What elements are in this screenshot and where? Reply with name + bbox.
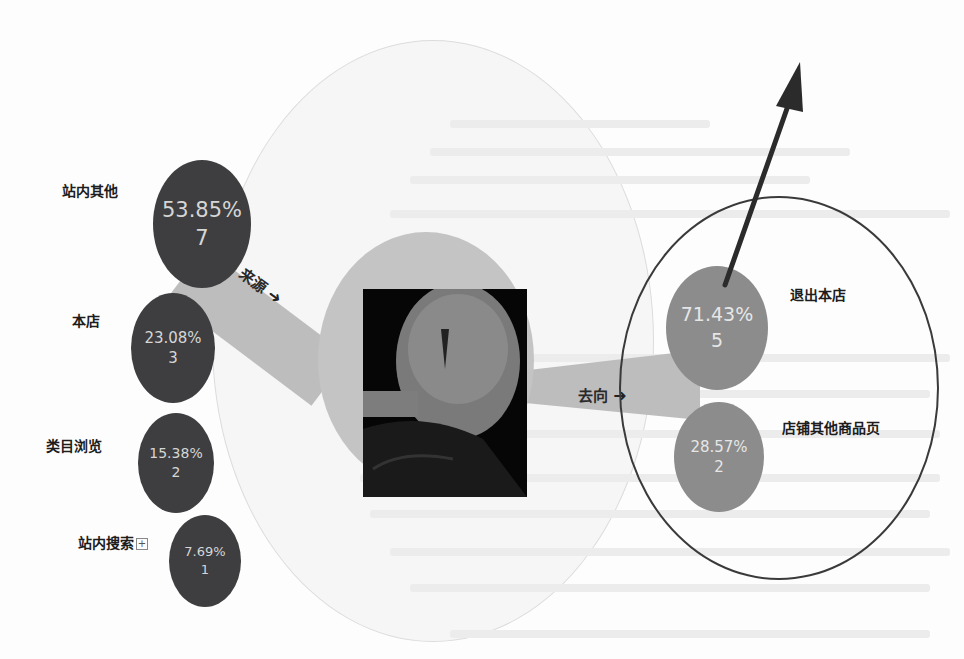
product-photo[interactable]	[363, 289, 527, 497]
destination-label-1: 店铺其他商品页	[782, 417, 880, 437]
source-label-0: 站内其他	[62, 180, 118, 200]
node-count: 3	[168, 348, 178, 368]
node-count: 1	[201, 561, 209, 579]
node-count: 2	[714, 457, 724, 477]
node-percent: 53.85%	[162, 196, 242, 224]
source-node-2[interactable]: 15.38% 2	[138, 413, 214, 513]
node-percent: 71.43%	[681, 302, 753, 328]
expand-icon[interactable]: +	[136, 538, 148, 550]
node-percent: 15.38%	[149, 444, 202, 463]
node-count: 7	[195, 224, 208, 252]
source-label-1: 本店	[72, 310, 100, 330]
destination-node-1[interactable]: 28.57% 2	[674, 402, 764, 512]
source-node-3[interactable]: 7.69% 1	[169, 515, 241, 607]
source-node-1[interactable]: 23.08% 3	[131, 293, 215, 403]
node-percent: 23.08%	[144, 328, 201, 348]
node-count: 2	[172, 463, 181, 482]
pointer-arrow-icon	[600, 40, 840, 300]
source-label-2: 类目浏览	[46, 435, 102, 455]
source-label-3: 站内搜索+	[78, 532, 148, 552]
node-count: 5	[711, 328, 723, 354]
source-node-0[interactable]: 53.85% 7	[153, 160, 251, 288]
node-percent: 7.69%	[184, 543, 225, 561]
node-percent: 28.57%	[690, 437, 747, 457]
product-image	[363, 289, 527, 497]
